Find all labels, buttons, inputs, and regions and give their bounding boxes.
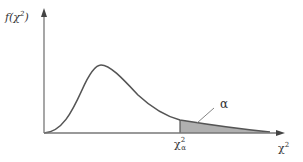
y-axis-arrow-icon (41, 8, 47, 17)
chi-square-chart: f(χ2) χ2 χ2α α (0, 0, 303, 162)
x-axis-label: χ2 (278, 141, 289, 155)
critical-value-label: χ2α (174, 136, 186, 152)
y-axis-label: f(χ2) (4, 10, 29, 24)
x-axis-arrow-icon (276, 130, 285, 136)
alpha-leader-line (197, 108, 214, 123)
density-curve (44, 65, 270, 133)
alpha-label: α (220, 97, 228, 111)
